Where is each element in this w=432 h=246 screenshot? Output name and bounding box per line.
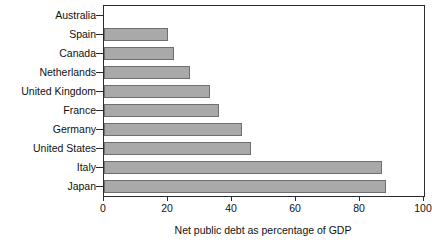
bar-italy [104, 161, 382, 174]
bar-row [104, 139, 424, 158]
bar-series [104, 6, 424, 196]
x-tick-100 [423, 196, 424, 201]
x-axis-tick-labels: 020406080100 [0, 202, 432, 216]
y-tick-united-kingdom [96, 82, 104, 101]
y-axis-label-france: France [0, 101, 96, 120]
y-axis-label-italy: Italy [0, 158, 96, 177]
bar-chart: Australia Spain Canada Netherlands Unite… [0, 0, 432, 246]
bar-row [104, 82, 424, 101]
bar-united-states [104, 142, 251, 155]
bar-row [104, 177, 424, 196]
x-tick-40 [231, 196, 232, 201]
y-axis-label-netherlands: Netherlands [0, 63, 96, 82]
x-tick-label-0: 0 [100, 202, 106, 214]
y-axis-category-labels: Australia Spain Canada Netherlands Unite… [0, 6, 96, 196]
y-axis-label-spain: Spain [0, 25, 96, 44]
x-tick-80 [359, 196, 360, 201]
x-tick-20 [167, 196, 168, 201]
y-tick-spain [96, 25, 104, 44]
x-tick-label-60: 60 [289, 202, 301, 214]
y-axis-label-australia: Australia [0, 6, 96, 25]
y-tick-japan [96, 177, 104, 196]
y-tick-germany [96, 120, 104, 139]
x-tick-label-40: 40 [225, 202, 237, 214]
bar-spain [104, 28, 168, 41]
bar-japan [104, 180, 386, 193]
bar-canada [104, 47, 174, 60]
y-tick-united-states [96, 139, 104, 158]
bar-row [104, 6, 424, 25]
y-tick-canada [96, 44, 104, 63]
y-tick-australia [96, 6, 104, 25]
y-axis-label-united-kingdom: United Kingdom [0, 82, 96, 101]
bar-row [104, 25, 424, 44]
bar-row [104, 120, 424, 139]
y-tick-france [96, 101, 104, 120]
x-tick-label-100: 100 [414, 202, 432, 214]
bar-row [104, 158, 424, 177]
x-tick-label-80: 80 [353, 202, 365, 214]
bar-united-kingdom [104, 85, 210, 98]
y-tick-netherlands [96, 63, 104, 82]
bar-row [104, 101, 424, 120]
bar-row [104, 63, 424, 82]
bar-germany [104, 123, 242, 136]
y-axis-tick-marks [96, 6, 104, 196]
bar-france [104, 104, 219, 117]
y-axis-label-canada: Canada [0, 44, 96, 63]
x-tick-0 [103, 196, 104, 201]
x-axis-title: Net public debt as percentage of GDP [103, 224, 423, 236]
bar-netherlands [104, 66, 190, 79]
y-axis-label-germany: Germany [0, 120, 96, 139]
y-tick-italy [96, 158, 104, 177]
y-axis-label-japan: Japan [0, 177, 96, 196]
x-tick-label-20: 20 [161, 202, 173, 214]
bar-row [104, 44, 424, 63]
x-tick-60 [295, 196, 296, 201]
y-axis-label-united-states: United States [0, 139, 96, 158]
